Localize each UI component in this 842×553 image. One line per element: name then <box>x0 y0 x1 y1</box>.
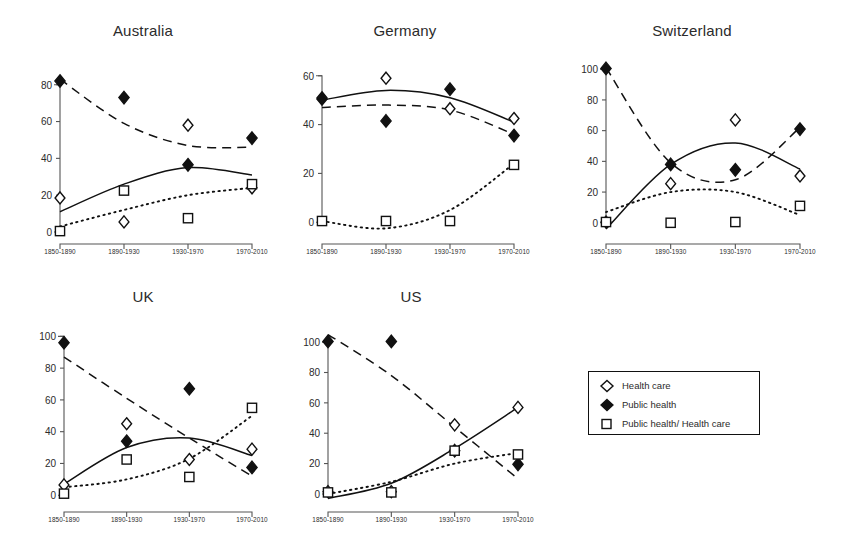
data-point-filled-diamond <box>381 115 391 128</box>
y-tick-label: 0 <box>46 227 52 238</box>
y-tick-label: 60 <box>303 71 315 82</box>
data-point-filled-diamond <box>247 461 257 474</box>
data-point-open-diamond <box>450 419 460 431</box>
data-point-open-diamond <box>666 178 676 190</box>
data-point-open-diamond <box>183 119 193 131</box>
y-tick-label: 0 <box>592 218 598 229</box>
data-point-filled-diamond <box>730 164 740 177</box>
data-point-open-diamond <box>730 114 740 126</box>
y-tick-label: 40 <box>303 119 315 130</box>
open-diamond-icon <box>598 379 616 393</box>
legend-item-health-care: Health care <box>598 376 759 395</box>
trend-curve-dotted <box>60 188 252 227</box>
x-axis-spine <box>328 512 518 517</box>
data-point-filled-diamond <box>509 129 519 142</box>
x-tick-label: 1890-1930 <box>655 248 687 255</box>
chart-svg-us: 0204060801001850-18901890-19301930-19701… <box>276 288 546 540</box>
y-tick-label: 0 <box>308 217 314 228</box>
data-point-open-square <box>601 217 610 226</box>
y-tick-label: 80 <box>45 363 57 374</box>
trend-curve-dotted <box>64 416 252 487</box>
chart-legend: Health care Public health Public health/… <box>588 371 760 435</box>
legend-item-public-health: Public health <box>598 395 759 414</box>
data-point-open-square <box>183 214 192 223</box>
x-axis-spine <box>322 244 514 249</box>
x-tick-label: 1970-2010 <box>784 248 816 255</box>
x-tick-label: 1970-2010 <box>502 516 534 523</box>
trend-curve-dashed <box>64 357 252 476</box>
chart-panel-switzerland: Switzerland 0204060801001850-18901890-19… <box>552 22 832 274</box>
panel-title-germany: Germany <box>276 22 534 39</box>
y-tick-label: 0 <box>314 489 320 500</box>
panel-title-uk: UK <box>14 288 272 305</box>
y-tick-label: 20 <box>303 168 315 179</box>
x-tick-label: 1890-1930 <box>376 516 408 523</box>
x-axis-spine <box>60 244 252 249</box>
small-multiples-figure: Australia 0204060801850-18901890-1930193… <box>0 0 842 553</box>
x-tick-label: 1930-1970 <box>172 248 204 255</box>
data-point-filled-diamond <box>183 159 193 172</box>
data-point-open-square <box>247 403 256 412</box>
y-axis-spine <box>600 69 606 223</box>
data-point-open-square <box>122 455 131 464</box>
data-point-open-square <box>59 489 68 498</box>
data-point-open-square <box>795 201 804 210</box>
legend-label-health-care: Health care <box>622 380 671 391</box>
filled-diamond-icon <box>598 398 616 412</box>
y-tick-label: 20 <box>587 187 599 198</box>
x-tick-label: 1930-1970 <box>174 516 206 523</box>
y-tick-label: 80 <box>309 367 321 378</box>
y-tick-label: 100 <box>303 337 320 348</box>
chart-panel-germany: Germany 02040601850-18901890-19301930-19… <box>276 22 534 274</box>
panel-title-australia: Australia <box>14 22 272 39</box>
data-point-open-square <box>666 218 675 227</box>
data-point-open-square <box>731 217 740 226</box>
data-point-open-square <box>317 216 326 225</box>
chart-panel-uk: UK 0204060801001850-18901890-19301930-19… <box>14 288 272 540</box>
x-tick-label: 1850-1890 <box>48 516 80 523</box>
data-point-filled-diamond <box>59 336 69 349</box>
y-tick-label: 40 <box>41 153 53 164</box>
x-tick-label: 1850-1890 <box>44 248 76 255</box>
y-tick-label: 20 <box>41 190 53 201</box>
data-point-filled-diamond <box>184 382 194 395</box>
panel-title-us: US <box>276 288 546 305</box>
x-tick-label: 1970-2010 <box>498 248 530 255</box>
data-point-open-diamond <box>795 170 805 182</box>
y-tick-label: 60 <box>45 395 57 406</box>
chart-panel-australia: Australia 0204060801850-18901890-1930193… <box>14 22 272 274</box>
trend-curve-dotted <box>328 453 518 494</box>
y-tick-label: 40 <box>309 428 321 439</box>
x-tick-label: 1930-1970 <box>720 248 752 255</box>
data-point-open-square <box>55 226 64 235</box>
data-point-filled-diamond <box>513 458 523 471</box>
data-point-open-square <box>445 216 454 225</box>
y-axis-spine <box>58 336 64 495</box>
x-tick-label: 1970-2010 <box>236 516 268 523</box>
x-tick-label: 1930-1970 <box>434 248 466 255</box>
y-tick-label: 20 <box>309 458 321 469</box>
trend-curve-solid <box>60 167 252 211</box>
chart-svg-australia: 0204060801850-18901890-19301930-19701970… <box>14 22 272 274</box>
x-axis-spine <box>64 512 252 517</box>
x-tick-label: 1890-1930 <box>108 248 140 255</box>
data-point-open-square <box>387 488 396 497</box>
data-point-open-diamond <box>119 216 129 228</box>
chart-panel-us: US 0204060801001850-18901890-19301930-19… <box>276 288 546 540</box>
legend-label-public-health: Public health <box>622 399 676 410</box>
y-tick-label: 40 <box>45 426 57 437</box>
x-tick-label: 1850-1890 <box>590 248 622 255</box>
y-tick-label: 60 <box>309 398 321 409</box>
y-tick-label: 60 <box>587 125 599 136</box>
data-point-filled-diamond <box>445 83 455 96</box>
data-point-open-diamond <box>381 72 391 84</box>
data-point-open-diamond <box>55 192 65 204</box>
trend-curve-dotted <box>606 189 800 215</box>
data-point-filled-diamond <box>795 123 805 136</box>
x-tick-label: 1930-1970 <box>439 516 471 523</box>
data-point-open-square <box>119 186 128 195</box>
y-tick-label: 40 <box>587 156 599 167</box>
y-tick-label: 80 <box>41 80 53 91</box>
x-tick-label: 1850-1890 <box>306 248 338 255</box>
data-point-filled-diamond <box>247 132 257 145</box>
